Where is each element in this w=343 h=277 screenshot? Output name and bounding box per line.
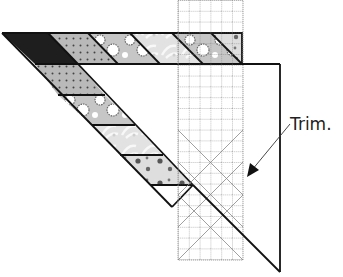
patch-dotted-diag [35,64,105,95]
arrow-head-icon [247,163,259,177]
trim-annotation: Trim. [247,114,332,177]
quilting-ruler [178,0,243,260]
patch-leafy-diag [92,125,163,155]
arrow-line [252,124,290,170]
quilt-trim-diagram: Trim. [0,0,343,277]
patch-circles-diag [58,95,135,125]
trim-label: Trim. [289,114,332,134]
